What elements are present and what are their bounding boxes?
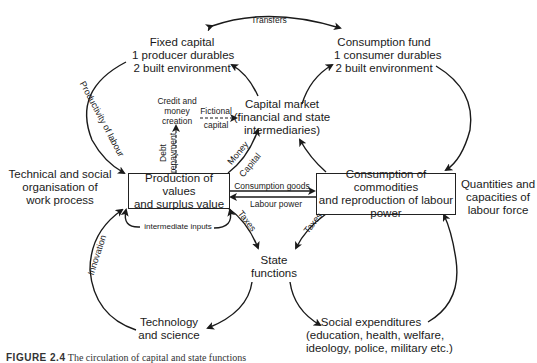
production-line-1: Production of values: [129, 172, 229, 198]
credit-line-1: Credit and: [154, 96, 200, 106]
capital-market-line-3: intermediaries): [232, 124, 332, 137]
consumption-line-3: power: [317, 207, 455, 220]
fictional-line-1: Fictional: [198, 106, 234, 116]
social-line-1: Social expenditures: [306, 316, 436, 329]
node-state-functions: State functions: [246, 254, 302, 280]
technical-line-2: organisation of: [4, 181, 116, 194]
node-consumption-box: Consumption of commodities and reproduct…: [316, 173, 456, 215]
social-line-2: (education, health, welfare,: [306, 329, 436, 342]
quantities-line-1: Quantities and: [460, 178, 536, 191]
label-consumption-goods: Consumption goods: [232, 181, 312, 191]
node-fixed-capital: Fixed capital 1 producer durables 2 buil…: [132, 36, 232, 75]
figure-caption-text: The circulation of capital and state fun…: [68, 352, 246, 363]
node-credit-money-creation: Credit and money creation: [154, 96, 200, 126]
technology-line-2: and science: [136, 329, 202, 342]
production-line-2: and surplus value: [129, 198, 229, 211]
intermediate-inputs-left: [125, 210, 140, 227]
state-line-1: State: [246, 254, 302, 267]
quantities-line-2: capacities of: [460, 191, 536, 204]
technical-line-3: work process: [4, 194, 116, 207]
label-labour-power: Labour power: [246, 199, 306, 209]
label-intermediate-inputs: intermediate inputs: [142, 222, 214, 232]
label-transfers: Transfers: [248, 15, 290, 25]
debt-line-2: repayment: [168, 133, 178, 173]
node-technology-science: Technology and science: [136, 316, 202, 342]
consumption-line-2: and reproduction of labour: [317, 194, 455, 207]
social-line-3: ideology, police, military etc.): [306, 342, 436, 355]
node-production-box: Production of values and surplus value: [128, 173, 230, 209]
label-debt-repayment: Debt repayment: [158, 133, 178, 173]
consumption-line-1: Consumption of commodities: [317, 168, 455, 194]
capital-market-title: Capital market: [232, 98, 332, 111]
node-social-expenditures: Social expenditures (education, health, …: [306, 316, 436, 355]
fictional-line-2: capital: [198, 120, 234, 130]
label-fictional-capital: Fictional capital: [198, 106, 234, 130]
fixed-capital-item-2: 2 built environment: [132, 62, 232, 75]
state-line-2: functions: [246, 267, 302, 280]
consumption-fund-item-2: 2 built environment: [334, 62, 434, 75]
consumption-fund-item-1: 1 consumer durables: [334, 49, 434, 62]
quantities-line-3: labour force: [460, 204, 536, 217]
fixed-capital-title: Fixed capital: [132, 36, 232, 49]
technical-line-1: Technical and social: [4, 168, 116, 181]
capital-to-fixed-arrow: [232, 65, 258, 96]
node-quantities-labour-force: Quantities and capacities of labour forc…: [460, 178, 536, 217]
fixed-capital-item-1: 1 producer durables: [132, 49, 232, 62]
credit-line-2: money: [154, 106, 200, 116]
capital-market-line-2: (financial and state: [232, 111, 332, 124]
node-capital-market: Capital market (financial and state inte…: [232, 98, 332, 137]
technology-line-1: Technology: [136, 316, 202, 329]
node-consumption-fund: Consumption fund 1 consumer durables 2 b…: [334, 36, 434, 75]
state-to-technology-arrow: [208, 282, 252, 328]
intermediate-inputs-right: [214, 210, 231, 228]
figure-label: FIGURE 2.4: [6, 352, 65, 363]
consumption-fund-to-consumption-arrow: [436, 66, 471, 170]
credit-line-3: creation: [154, 116, 200, 126]
social-to-consumption-arrow: [428, 215, 457, 322]
debt-line-1: Debt: [158, 133, 168, 173]
consumption-fund-title: Consumption fund: [334, 36, 434, 49]
node-technical-social-organisation: Technical and social organisation of wor…: [4, 168, 116, 207]
figure-caption: FIGURE 2.4 The circulation of capital an…: [6, 352, 246, 363]
